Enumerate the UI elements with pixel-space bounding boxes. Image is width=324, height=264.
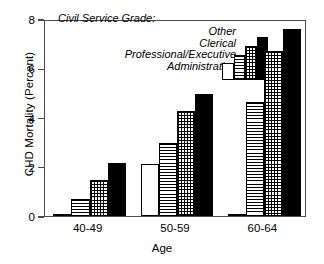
bar-40-49-other <box>108 163 126 216</box>
x-tick-label-50-59: 50-59 <box>130 222 220 234</box>
bar-60-64-professional-executive <box>246 102 264 217</box>
y-tick-mark <box>38 167 44 168</box>
legend-swatch-group <box>220 37 268 80</box>
bar-50-59-administrative <box>141 164 159 216</box>
legend-label-list: OtherClericalProfessional/ExecutiveAdmin… <box>50 26 236 72</box>
bar-60-64-administrative <box>228 214 246 216</box>
y-tick-mark <box>38 19 44 20</box>
y-tick-mark <box>38 118 44 119</box>
legend-swatch-administrative <box>222 63 234 80</box>
x-axis-title: Age <box>0 242 324 254</box>
legend-swatch-clerical <box>245 46 257 80</box>
y-tick-label: 4 <box>5 111 35 127</box>
bar-40-49-clerical <box>90 180 108 216</box>
y-tick-mark <box>38 69 44 70</box>
legend-label-3: Administrative <box>50 61 236 73</box>
x-tick-label-40-49: 40-49 <box>43 222 133 234</box>
chd-mortality-bar-chart: CHD Mortality (Percent) Age 02468 40-495… <box>0 0 324 264</box>
y-tick-label: 2 <box>5 160 35 176</box>
bar-50-59-professional-executive <box>159 143 177 216</box>
legend-swatch-professional-executive <box>234 55 246 80</box>
y-tick-mark <box>38 216 44 217</box>
bar-50-59-clerical <box>177 111 195 216</box>
bar-50-59-other <box>195 94 213 216</box>
y-tick-label: 8 <box>5 12 35 28</box>
y-tick-label: 0 <box>5 209 35 225</box>
legend-title: Civil Service Grade: <box>58 12 155 24</box>
bar-40-49-professional-executive <box>71 199 89 216</box>
bar-40-49-administrative <box>53 214 71 216</box>
bar-60-64-other <box>283 29 301 216</box>
y-tick-label: 6 <box>5 61 35 77</box>
legend-label-0: Other <box>50 26 236 38</box>
bar-60-64-clerical <box>264 51 282 216</box>
x-tick-label-60-64: 60-64 <box>217 222 307 234</box>
legend: Civil Service Grade: OtherClericalProfes… <box>46 12 236 78</box>
